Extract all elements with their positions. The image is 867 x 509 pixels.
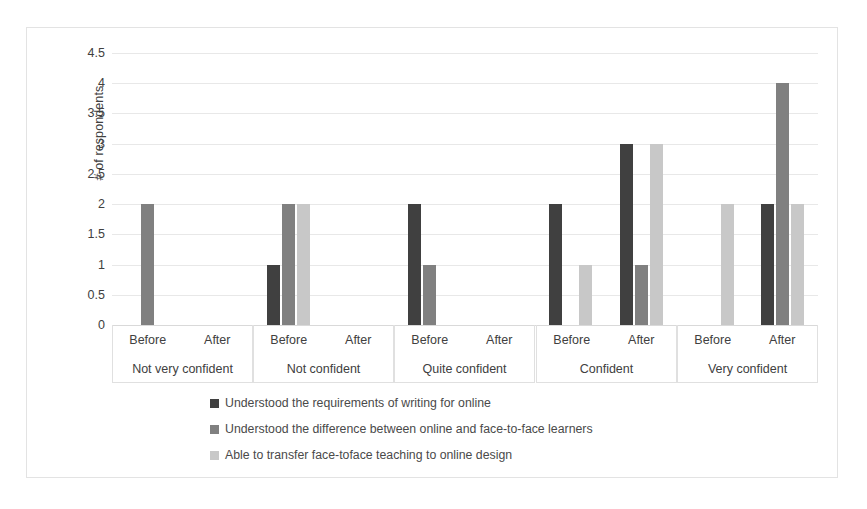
category-axis: BeforeAfterNot very confidentBeforeAfter… [112, 325, 818, 383]
category-group: BeforeAfterNot very confident [112, 325, 253, 383]
bar [282, 204, 295, 325]
bar [635, 265, 648, 325]
y-axis-tick-label: 0.5 [88, 288, 105, 302]
category-sub-label: Before [395, 325, 465, 354]
bar [761, 204, 774, 325]
y-axis-tick-label: 2 [98, 197, 105, 211]
gridline [112, 144, 818, 145]
legend-item[interactable]: Able to transfer face-toface teaching to… [112, 442, 818, 468]
category-sub-label: Before [537, 325, 607, 354]
y-axis-tick-label: 4 [98, 76, 105, 90]
chart-legend: Understood the requirements of writing f… [112, 390, 818, 468]
gridline [112, 204, 818, 205]
gridline [112, 295, 818, 296]
category-group: BeforeAfterQuite confident [394, 325, 535, 383]
bar [267, 265, 280, 325]
bar [791, 204, 804, 325]
bar [579, 265, 592, 325]
legend-swatch-series2 [210, 425, 219, 434]
y-axis-tick-label: 1 [98, 258, 105, 272]
gridline [112, 174, 818, 175]
legend-item-label: Understood the requirements of writing f… [225, 396, 491, 410]
category-sub-label: After [607, 325, 677, 354]
bar [620, 144, 633, 325]
bar [721, 204, 734, 325]
y-axis-tick-label: 2.5 [88, 167, 105, 181]
category-sub-label: After [324, 325, 394, 354]
figure-caption-faint [0, 486, 867, 509]
category-sub-label: Before [678, 325, 748, 354]
category-main-label: Very confident [678, 354, 817, 383]
bar [297, 204, 310, 325]
gridline [112, 83, 818, 84]
category-sub-label: After [748, 325, 818, 354]
figure-container: # of respondents 4.543.532.521.510.50 Be… [0, 0, 867, 509]
gridline [112, 113, 818, 114]
y-axis-tick-label: 0 [98, 318, 105, 332]
category-sub-label: Before [254, 325, 324, 354]
bar [776, 83, 789, 325]
plot-area: 4.543.532.521.510.50 [112, 53, 818, 325]
legend-swatch-series3 [210, 451, 219, 460]
bar [423, 265, 436, 325]
legend-item[interactable]: Understood the difference between online… [112, 416, 818, 442]
gridline [112, 53, 818, 54]
chart-frame: # of respondents 4.543.532.521.510.50 Be… [26, 27, 838, 478]
legend-item-label: Understood the difference between online… [225, 422, 593, 436]
category-sub-label: After [183, 325, 253, 354]
category-sub-label: Before [113, 325, 183, 354]
legend-item[interactable]: Understood the requirements of writing f… [112, 390, 818, 416]
category-sub-label: After [465, 325, 535, 354]
category-group: BeforeAfterConfident [536, 325, 677, 383]
y-axis-tick-label: 1.5 [88, 227, 105, 241]
gridline [112, 265, 818, 266]
category-group: BeforeAfterNot confident [253, 325, 394, 383]
category-main-label: Quite confident [395, 354, 534, 383]
category-main-label: Not very confident [113, 354, 252, 383]
category-group: BeforeAfterVery confident [677, 325, 818, 383]
bar [408, 204, 421, 325]
bar [141, 204, 154, 325]
legend-item-label: Able to transfer face-toface teaching to… [225, 448, 512, 462]
bar [650, 144, 663, 325]
gridline [112, 234, 818, 235]
y-axis-tick-label: 3.5 [88, 106, 105, 120]
bar [549, 204, 562, 325]
category-main-label: Confident [537, 354, 676, 383]
y-axis-tick-label: 3 [98, 137, 105, 151]
legend-swatch-series1 [210, 399, 219, 408]
category-main-label: Not confident [254, 354, 393, 383]
y-axis-tick-label: 4.5 [88, 46, 105, 60]
